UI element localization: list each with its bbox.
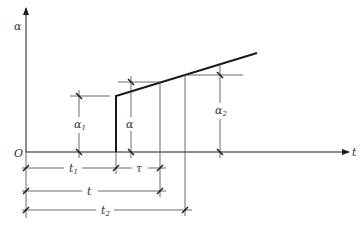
origin-label: O bbox=[14, 147, 23, 160]
t-label: t bbox=[87, 185, 92, 198]
response-curve bbox=[116, 53, 257, 152]
step-ramp-diagram: α t O α1 α α2 t1 τ t t2 bbox=[0, 0, 363, 235]
x-axis-label: t bbox=[352, 146, 357, 159]
y-axis-label: α bbox=[14, 20, 22, 33]
alpha-label: α bbox=[126, 118, 134, 131]
tau-label: τ bbox=[136, 162, 143, 175]
